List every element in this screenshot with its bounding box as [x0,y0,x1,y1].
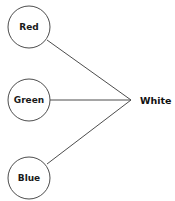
node-green-label: Green [14,95,44,105]
node-blue-label: Blue [18,173,40,183]
diagram-canvas: Red Green Blue White [0,0,175,201]
color-mixing-diagram: Red Green Blue White [0,0,175,201]
node-white-label: White [140,95,171,106]
edge-blue-to-white [47,100,131,164]
edge-red-to-white [47,40,131,100]
node-red-label: Red [19,22,38,32]
